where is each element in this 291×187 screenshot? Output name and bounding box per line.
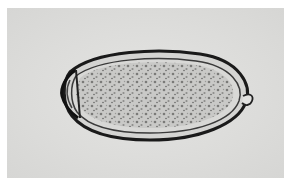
egg-illustration	[0, 0, 291, 187]
abopercular-knob	[242, 94, 253, 105]
